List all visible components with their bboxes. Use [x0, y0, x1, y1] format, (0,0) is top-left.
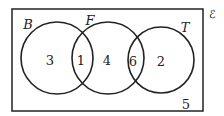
set-f-label: F: [85, 14, 94, 27]
region-b-only: 3: [46, 54, 54, 67]
region-b-and-f: 1: [77, 54, 85, 67]
set-b-label: B: [23, 18, 33, 31]
universal-set-label: ℰ: [209, 9, 216, 20]
region-outside: 5: [182, 98, 190, 111]
set-t-label: T: [181, 21, 190, 34]
region-f-only: 4: [103, 54, 111, 67]
region-f-and-t: 6: [129, 55, 137, 68]
region-t-only: 2: [157, 55, 165, 68]
venn-diagram: [0, 0, 224, 116]
